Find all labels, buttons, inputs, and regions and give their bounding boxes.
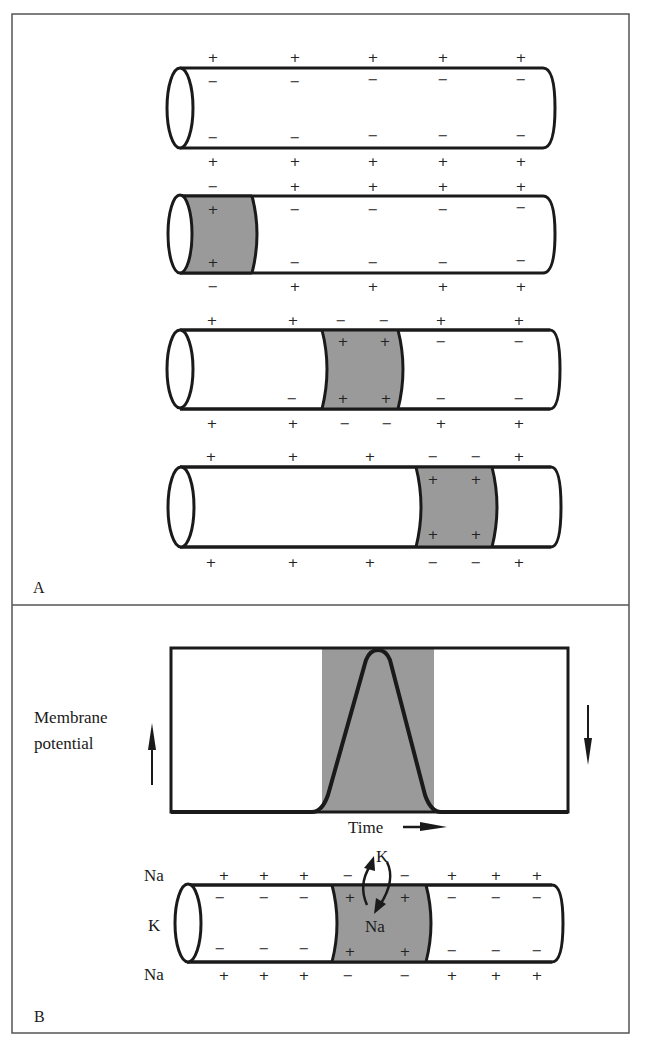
svg-text:+: + (207, 313, 218, 328)
svg-text:+: + (516, 179, 527, 194)
svg-text:−: − (491, 943, 502, 958)
svg-text:−: − (514, 334, 525, 349)
svg-text:−: − (516, 128, 527, 143)
svg-text:+: + (290, 279, 301, 294)
svg-text:−: − (208, 74, 219, 89)
svg-text:−: − (382, 416, 393, 431)
svg-text:−: − (379, 313, 390, 328)
svg-text:+: + (208, 50, 219, 65)
svg-text:+: + (208, 202, 219, 217)
svg-text:−: − (368, 128, 379, 143)
svg-text:−: − (471, 555, 482, 570)
svg-text:+: + (428, 472, 439, 487)
svg-text:−: − (438, 255, 449, 270)
down-arrow-icon (584, 705, 592, 765)
svg-text:+: + (368, 279, 379, 294)
ion-label-na-top: Na (144, 866, 164, 885)
y-axis-label-line2: potential (34, 734, 94, 753)
membrane-potential-graph (171, 648, 568, 812)
svg-text:−: − (336, 313, 347, 328)
svg-text:+: + (338, 391, 349, 406)
svg-text:−: − (516, 200, 527, 215)
panel-a-label: A (33, 579, 45, 596)
svg-text:+: + (345, 890, 356, 905)
svg-text:+: + (368, 154, 379, 169)
svg-text:+: + (428, 527, 439, 542)
x-axis-label: Time (348, 818, 383, 837)
svg-text:−: − (368, 72, 379, 87)
svg-text:+: + (447, 968, 458, 983)
svg-text:+: + (532, 968, 543, 983)
svg-text:−: − (290, 202, 301, 217)
axon-depolarized-middle: ++−−++ ++−− −++−− ++−−++ (167, 313, 560, 431)
axon-resting: +++++ −−−−− −−−−− +++++ (167, 50, 555, 169)
svg-text:−: − (215, 941, 226, 956)
svg-text:−: − (438, 202, 449, 217)
svg-text:−: − (491, 890, 502, 905)
svg-text:+: + (288, 555, 299, 570)
svg-text:−: − (368, 255, 379, 270)
svg-text:+: + (290, 154, 301, 169)
svg-text:−: − (299, 890, 310, 905)
svg-text:−: − (259, 890, 270, 905)
svg-text:+: + (532, 868, 543, 883)
svg-text:−: − (215, 890, 226, 905)
svg-text:−: − (532, 943, 543, 958)
axon-depolarized-right: +++−−+ ++ ++ +++−−+ (168, 449, 561, 570)
svg-text:−: − (428, 555, 439, 570)
svg-text:+: + (514, 313, 525, 328)
ion-label-na-bottom: Na (144, 965, 164, 984)
svg-text:−: − (516, 72, 527, 87)
svg-text:+: + (368, 179, 379, 194)
svg-text:+: + (290, 50, 301, 65)
svg-text:+: + (491, 968, 502, 983)
svg-text:+: + (516, 279, 527, 294)
svg-text:+: + (208, 255, 219, 270)
axon-depolarized-left: −++++ +−−−− +−−−− −++++ (168, 179, 555, 294)
svg-text:−: − (532, 890, 543, 905)
svg-text:−: − (290, 130, 301, 145)
svg-text:−: − (447, 890, 458, 905)
svg-text:+: + (400, 890, 411, 905)
svg-text:+: + (400, 944, 411, 959)
svg-text:+: + (288, 313, 299, 328)
panel-b: Membrane potential Time +++−−+++ −− (34, 648, 592, 1025)
svg-text:−: − (400, 868, 411, 883)
svg-text:+: + (288, 416, 299, 431)
y-axis-label-line1: Membrane (34, 708, 108, 727)
svg-text:−: − (428, 449, 439, 464)
svg-text:−: − (343, 968, 354, 983)
svg-text:+: + (206, 555, 217, 570)
ion-label-k-out: K (376, 847, 389, 866)
svg-text:+: + (471, 527, 482, 542)
svg-text:−: − (287, 391, 298, 406)
svg-text:+: + (516, 154, 527, 169)
svg-text:−: − (259, 941, 270, 956)
ion-label-k-inside: K (148, 916, 161, 935)
svg-text:−: − (438, 128, 449, 143)
svg-text:+: + (288, 449, 299, 464)
svg-text:−: − (436, 391, 447, 406)
svg-text:+: + (438, 50, 449, 65)
svg-text:+: + (299, 868, 310, 883)
svg-text:−: − (208, 279, 219, 294)
svg-text:−: − (208, 179, 219, 194)
svg-text:+: + (438, 154, 449, 169)
svg-text:+: + (345, 944, 356, 959)
nerve-impulse-figure: +++++ −−−−− −−−−− +++++ −++++ +−−−− +−−−… (0, 0, 646, 1042)
right-arrow-icon (403, 822, 447, 831)
svg-text:−: − (290, 74, 301, 89)
svg-text:+: + (516, 50, 527, 65)
svg-text:+: + (514, 449, 525, 464)
svg-text:−: − (368, 202, 379, 217)
svg-text:+: + (491, 868, 502, 883)
svg-text:+: + (368, 50, 379, 65)
svg-text:+: + (219, 868, 230, 883)
panel-b-label: B (34, 1008, 45, 1025)
svg-text:+: + (290, 179, 301, 194)
svg-text:−: − (438, 72, 449, 87)
svg-text:+: + (514, 416, 525, 431)
ion-label-na-in: Na (365, 917, 385, 936)
svg-text:+: + (471, 472, 482, 487)
svg-text:−: − (514, 391, 525, 406)
